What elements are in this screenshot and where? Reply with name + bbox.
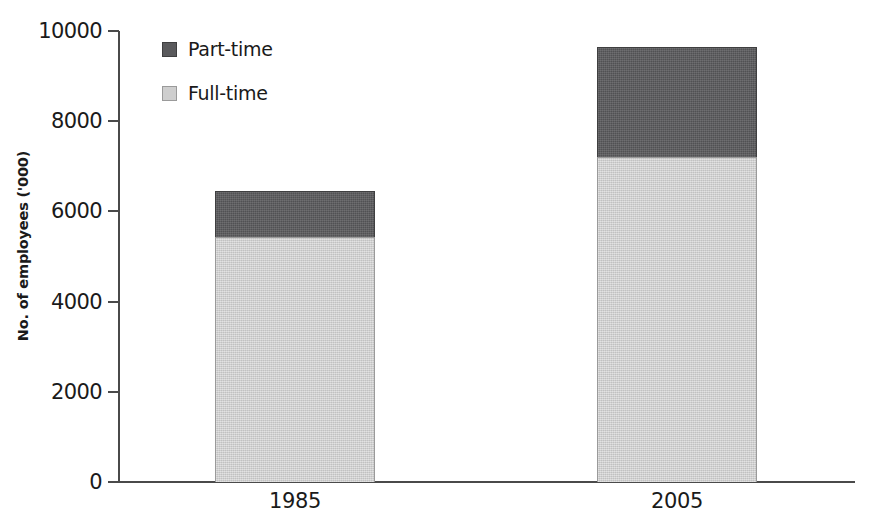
y-axis-tick-label: 6000 (2, 199, 102, 223)
bar-segment-part-time-1985 (215, 191, 375, 237)
bar-stack-2005 (597, 47, 757, 482)
bar-segment-full-time-1985 (215, 237, 375, 482)
legend-label-part-time: Part-time (188, 38, 273, 60)
stacked-bar-chart: No. of employees ('000) 0200040006000800… (0, 0, 879, 529)
light-gray-swatch-icon (162, 86, 177, 101)
bar-stack-1985 (215, 191, 375, 482)
y-axis-tick (108, 120, 119, 122)
dark-gray-swatch-icon (162, 42, 177, 57)
x-axis-tick-label: 2005 (651, 489, 703, 513)
y-axis-tick (108, 210, 119, 212)
y-axis-tick-label: 10000 (2, 19, 102, 43)
y-axis-tick-label: 0 (2, 470, 102, 494)
y-axis-tick (108, 301, 119, 303)
bar-segment-part-time-2005 (597, 47, 757, 157)
y-axis-tick-label: 4000 (2, 290, 102, 314)
y-axis-tick (108, 30, 119, 32)
legend-item-part-time: Part-time (162, 38, 273, 60)
legend-item-full-time: Full-time (162, 82, 273, 104)
legend-label-full-time: Full-time (188, 82, 268, 104)
y-axis-tick (108, 391, 119, 393)
y-axis-tick-label: 2000 (2, 380, 102, 404)
bar-segment-full-time-2005 (597, 157, 757, 482)
y-axis-tick-label: 8000 (2, 109, 102, 133)
chart-legend: Part-time Full-time (162, 38, 273, 126)
y-axis-tick (108, 481, 119, 483)
x-axis-tick-label: 1985 (269, 489, 321, 513)
